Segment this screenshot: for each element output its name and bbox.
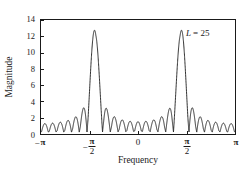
x-axis-title: Frequency [40,155,236,165]
pi-symbol: π [234,137,239,147]
x-tick-label-neg-pi-over-2: −π2 [82,137,95,156]
series-magnitude-line [41,30,235,132]
y-tick-label: 4 [31,98,35,107]
x-tick-label-zero: 0 [136,137,141,147]
x-tick-label-neg-pi: −π [34,137,45,148]
y-tick-label: 10 [27,48,36,57]
annotation-L-equals-25: L = 25 [186,28,209,38]
y-tick-label: 6 [31,81,35,90]
minus-sign: − [34,138,39,148]
x-tick-label-pi: π [234,137,239,147]
annotation-symbol: L [186,28,191,38]
y-tick-label: 2 [31,114,35,123]
annotation-value: 25 [200,28,209,38]
y-tick-label: 14 [27,15,36,24]
x-tick-label-pi-over-2: π2 [184,137,191,156]
y-tick-label: 8 [31,64,35,73]
fraction: π2 [184,137,191,156]
y-axis-tick-labels: 14 12 10 8 6 4 2 0 [0,19,38,135]
minus-sign: − [82,142,87,152]
fraction: π2 [89,137,96,156]
zero-label: 0 [136,137,141,147]
figure-chart-magnitude-vs-frequency: Magnitude 14 12 10 8 6 4 2 0 L = 25 [0,0,250,171]
annotation-equals: = [193,28,198,38]
y-tick-label: 12 [27,31,36,40]
x-axis-title-text: Frequency [118,155,158,165]
pi-symbol: π [41,137,46,147]
